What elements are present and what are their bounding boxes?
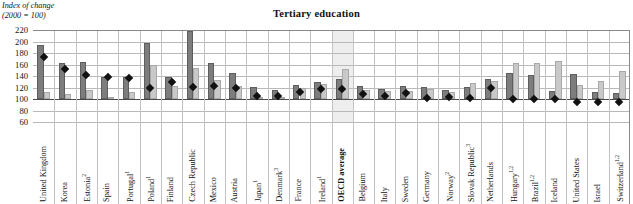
chart-root: Index of change (2000 = 100) Tertiary ed… [0,0,633,204]
chart-title: Tertiary education [0,8,633,19]
y-tick-120: 120 [0,83,28,92]
category-axis-frame [33,122,630,204]
y-tick-100: 100 [0,95,28,104]
y-tick-60: 60 [0,118,28,127]
y-tick-140: 140 [0,72,28,81]
plot-frame [33,30,630,122]
y-tick-160: 160 [0,60,28,69]
category-axis: United KingdomKoreaEstonia2SpainPortugal… [33,122,630,204]
y-axis-tick-labels: 6080100120140160180200220 [0,30,31,122]
plot-area [33,30,630,122]
y-tick-80: 80 [0,106,28,115]
y-tick-200: 200 [0,37,28,46]
y-tick-220: 220 [0,26,28,35]
y-tick-180: 180 [0,49,28,58]
